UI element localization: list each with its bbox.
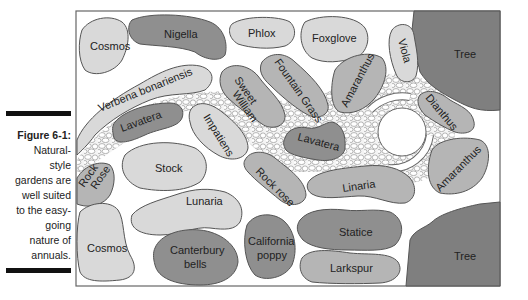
label-cosmos-bottom: Cosmos (87, 242, 128, 254)
label-poppy: poppy (257, 249, 287, 261)
label-nigella: Nigella (164, 28, 199, 40)
label-larkspur: Larkspur (330, 262, 373, 274)
label-tree-top: Tree (454, 48, 476, 60)
label-california: California (248, 235, 295, 247)
label-foxglove: Foxglove (312, 32, 357, 44)
label-tree-bottom: Tree (454, 250, 476, 262)
label-statice: Statice (339, 226, 373, 238)
label-bells: bells (184, 258, 207, 270)
label-cosmos-top: Cosmos (90, 40, 131, 52)
label-lunaria: Lunaria (186, 195, 224, 207)
label-phlox: Phlox (248, 27, 276, 39)
garden-plan: Cosmos Nigella Phlox Foxglove Viola Tree… (0, 0, 528, 300)
label-canterbury: Canterbury (170, 244, 225, 256)
label-stock: Stock (155, 162, 183, 174)
